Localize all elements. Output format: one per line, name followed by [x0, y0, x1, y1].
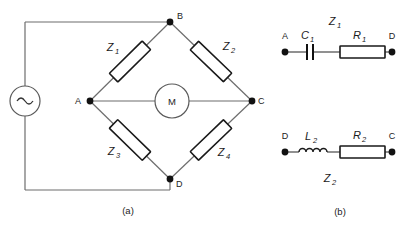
capacitor-c1-label: C: [301, 29, 309, 41]
branch-z2-title-sub: 2: [331, 178, 337, 187]
capacitor-c1-icon: [307, 44, 313, 60]
inductor-l2-label: L: [305, 130, 311, 142]
inductor-l2-icon: [299, 149, 327, 153]
caption-panel-b: (b): [334, 206, 346, 217]
meter-label: M: [168, 96, 176, 107]
node-c-dot: [249, 98, 256, 105]
impedance-z3-label: Z: [107, 145, 116, 157]
branch-z1-title-sub: 1: [337, 21, 341, 30]
node-d-label: D: [176, 179, 183, 189]
branch-z1-node-d-dot: [389, 49, 396, 56]
branch-z2-title: Z: [323, 172, 332, 184]
node-c-label: C: [258, 96, 265, 106]
node-b-label: B: [177, 11, 183, 21]
impedance-z2-label: Z: [222, 40, 231, 52]
branch-z2-node-d-label: D: [282, 131, 289, 141]
panel-a-bridge: M Z 1 Z 2 Z 3 Z 4: [10, 11, 265, 216]
resistor-r2-icon: [340, 146, 385, 158]
branch-z2-node-c-label: C: [389, 131, 396, 141]
impedance-z1-sub: 1: [115, 47, 119, 56]
figure-canvas: M Z 1 Z 2 Z 3 Z 4: [0, 0, 405, 231]
branch-z1-node-a-dot: [282, 49, 289, 56]
node-a-label: A: [75, 96, 81, 106]
impedance-z1-label: Z: [106, 41, 115, 53]
caption-panel-a: (a): [122, 205, 134, 216]
branch-z2-detail: L 2 R 2 D C Z 2: [282, 129, 396, 187]
branch-z1-title: Z: [328, 15, 337, 27]
branch-z2-node-c-dot: [389, 149, 396, 156]
node-d-dot: [167, 176, 174, 183]
resistor-r1-icon: [340, 46, 385, 58]
capacitor-c1-sub: 1: [310, 35, 314, 44]
branch-z2-node-d-dot: [282, 149, 289, 156]
impedance-z3-sub: 3: [116, 151, 121, 160]
branch-z1-node-a-label: A: [282, 31, 288, 41]
branch-z1-node-d-label: D: [389, 31, 396, 41]
branch-z1-detail: Z 1 C 1 R 1 A: [282, 15, 396, 60]
impedance-z4-label: Z: [217, 146, 226, 158]
impedance-z2-sub: 2: [230, 46, 236, 55]
resistor-r1-label: R: [353, 29, 361, 41]
inductor-l2-sub: 2: [312, 136, 318, 145]
panel-b-branches: Z 1 C 1 R 1 A: [282, 15, 396, 217]
impedance-z4-sub: 4: [226, 152, 230, 161]
resistor-r2-label: R: [353, 129, 361, 141]
circuit-diagram: M Z 1 Z 2 Z 3 Z 4: [0, 0, 405, 231]
node-a-dot: [87, 98, 94, 105]
resistor-r2-sub: 2: [361, 135, 367, 144]
resistor-r1-sub: 1: [362, 35, 366, 44]
node-b-dot: [167, 19, 174, 26]
